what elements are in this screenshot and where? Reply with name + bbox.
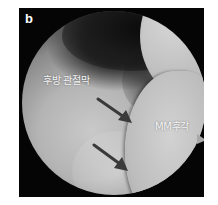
image-frame: 후방 관절막 MM후각 b [19,8,204,197]
arrow-icon [92,143,132,175]
arrow-icon [96,97,136,127]
meniscus-label: MM후각 [155,118,189,133]
panel-letter: b [25,11,33,26]
scope-notch-marker [197,134,204,144]
posterior-capsule-label: 후방 관절막 [43,72,89,87]
arthroscopic-view: 후방 관절막 MM후각 [22,11,204,195]
